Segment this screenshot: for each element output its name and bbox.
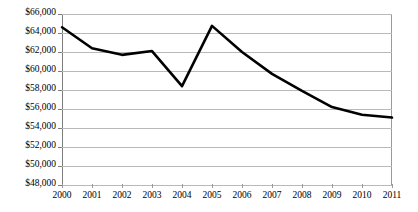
y-axis-tick-label: $48,000 bbox=[0, 178, 56, 188]
x-axis-tick bbox=[92, 184, 93, 188]
x-axis-tick bbox=[242, 184, 243, 188]
x-axis-tick bbox=[362, 184, 363, 188]
y-axis-tick-label: $66,000 bbox=[0, 7, 56, 17]
y-axis-tick-label: $58,000 bbox=[0, 83, 56, 93]
y-axis-tick-label: $60,000 bbox=[0, 64, 56, 74]
x-axis-tick bbox=[332, 184, 333, 188]
y-axis-tick-label: $64,000 bbox=[0, 26, 56, 36]
y-axis-tick-label: $54,000 bbox=[0, 121, 56, 131]
x-axis-tick bbox=[62, 184, 63, 188]
x-axis-tick bbox=[392, 184, 393, 188]
x-axis-tick bbox=[272, 184, 273, 188]
gridline bbox=[62, 185, 392, 186]
y-axis-tick-label: $52,000 bbox=[0, 140, 56, 150]
y-axis-tick-label: $56,000 bbox=[0, 102, 56, 112]
x-axis-tick bbox=[152, 184, 153, 188]
plot-area bbox=[62, 14, 392, 185]
x-axis-tick bbox=[122, 184, 123, 188]
y-axis-tick-label: $50,000 bbox=[0, 159, 56, 169]
series-path bbox=[62, 25, 392, 117]
data-series-line bbox=[62, 14, 392, 185]
x-axis-tick bbox=[212, 184, 213, 188]
line-chart: $48,000$50,000$52,000$54,000$56,000$58,0… bbox=[0, 0, 418, 212]
x-axis-tick bbox=[182, 184, 183, 188]
y-axis-tick-label: $62,000 bbox=[0, 45, 56, 55]
x-axis-tick-label: 2011 bbox=[372, 190, 412, 200]
x-axis-tick bbox=[302, 184, 303, 188]
